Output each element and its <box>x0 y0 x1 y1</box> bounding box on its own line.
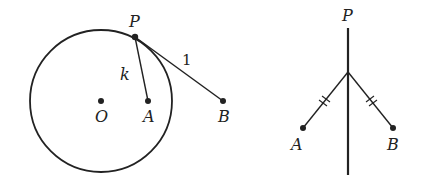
label-p-right: P <box>341 6 353 25</box>
segment-pb <box>135 37 223 101</box>
segment-junction-a <box>303 72 348 128</box>
label-k: k <box>120 65 130 84</box>
left-figure: P k 1 O A B <box>30 12 230 172</box>
point-a-right <box>300 125 306 131</box>
label-o: O <box>95 107 108 126</box>
diagram-canvas: P k 1 O A B P A B <box>0 0 426 186</box>
label-a: A <box>141 107 155 126</box>
point-b <box>220 98 226 104</box>
label-b-right: B <box>386 135 399 154</box>
right-figure: P A B <box>289 6 399 175</box>
label-b: B <box>217 107 230 126</box>
label-one: 1 <box>182 51 192 69</box>
segment-junction-b <box>348 72 393 128</box>
label-p: P <box>128 12 140 31</box>
point-a <box>145 98 151 104</box>
point-b-right <box>390 125 396 131</box>
point-o <box>98 98 104 104</box>
point-p <box>132 34 138 40</box>
label-a-right: A <box>289 135 303 154</box>
